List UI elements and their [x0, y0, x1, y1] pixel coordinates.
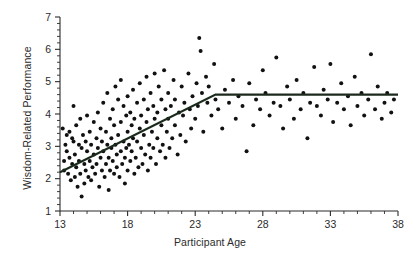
data-point [126, 169, 130, 173]
data-point [92, 120, 96, 124]
data-point [389, 110, 393, 114]
data-point [191, 94, 195, 98]
data-point [69, 178, 73, 182]
data-point [209, 114, 213, 118]
data-point [100, 139, 104, 143]
data-point [319, 114, 323, 118]
data-point [139, 146, 143, 150]
data-point [155, 136, 159, 140]
data-point [65, 149, 69, 153]
data-point [131, 88, 135, 92]
data-point [138, 81, 142, 85]
data-point [113, 85, 117, 89]
data-point [134, 156, 138, 160]
data-point [99, 127, 103, 131]
data-point [258, 107, 262, 111]
data-point [96, 110, 100, 114]
x-tick-label: 28 [257, 218, 269, 230]
x-tick-label: 38 [392, 218, 404, 230]
data-point [124, 146, 128, 150]
data-point [322, 88, 326, 92]
data-point [331, 120, 335, 124]
data-point [366, 97, 370, 101]
data-point [105, 91, 109, 95]
data-point [128, 159, 132, 163]
data-point [111, 159, 115, 163]
data-point [142, 133, 146, 137]
data-point [82, 182, 86, 186]
data-point [308, 101, 312, 105]
data-point [128, 110, 132, 114]
data-point [139, 114, 143, 118]
data-point [89, 143, 93, 147]
data-point [176, 152, 180, 156]
data-point [326, 97, 330, 101]
data-point [96, 146, 100, 150]
data-point [109, 136, 113, 140]
data-point [158, 149, 162, 153]
data-point [157, 85, 161, 89]
data-point [155, 110, 159, 114]
data-point [67, 130, 71, 134]
data-point [161, 143, 165, 147]
data-point [146, 107, 150, 111]
data-point [122, 104, 126, 108]
data-point [78, 117, 82, 121]
data-point [126, 130, 130, 134]
data-point [123, 182, 127, 186]
data-point [143, 152, 147, 156]
data-point [97, 185, 101, 189]
data-point [145, 120, 149, 124]
data-point [159, 123, 163, 127]
data-point [67, 156, 71, 160]
data-point [124, 114, 128, 118]
data-point [104, 162, 108, 166]
data-point [181, 114, 185, 118]
data-point [135, 139, 139, 143]
data-point [168, 146, 172, 150]
data-point [66, 172, 70, 176]
data-point [369, 52, 373, 56]
data-point [76, 185, 80, 189]
data-point [86, 175, 90, 179]
data-point [339, 81, 343, 85]
data-point [245, 149, 249, 153]
y-tick-label: 6 [45, 43, 51, 55]
data-point [278, 104, 282, 108]
data-point [165, 130, 169, 134]
data-point [62, 159, 66, 163]
data-point [268, 114, 272, 118]
data-point [199, 49, 203, 53]
data-point [261, 68, 265, 72]
data-point [89, 178, 93, 182]
data-point [132, 172, 136, 176]
axes-group [60, 17, 398, 211]
data-point [193, 117, 197, 121]
data-point [107, 156, 111, 160]
data-point [130, 123, 134, 127]
data-point [151, 146, 155, 150]
data-point [162, 68, 166, 72]
y-tick-label: 2 [45, 172, 51, 184]
y-tick-label: 4 [45, 108, 51, 120]
x-axis-ticks [60, 211, 398, 216]
data-point [88, 130, 92, 134]
data-point [132, 117, 136, 121]
data-point [74, 123, 78, 127]
data-point [100, 169, 104, 173]
data-point [392, 97, 396, 101]
data-point [182, 101, 186, 105]
data-point [103, 175, 107, 179]
data-point [173, 97, 177, 101]
x-tick-label: 18 [122, 218, 134, 230]
y-tick-label: 1 [45, 205, 51, 217]
data-point [105, 143, 109, 147]
data-point [119, 78, 123, 82]
data-point [169, 104, 173, 108]
data-point [104, 130, 108, 134]
scatter-plot-canvas: 1234567 131823283338 [0, 0, 420, 257]
data-point [295, 78, 299, 82]
data-point [184, 139, 188, 143]
data-point [140, 162, 144, 166]
data-point [234, 117, 238, 121]
